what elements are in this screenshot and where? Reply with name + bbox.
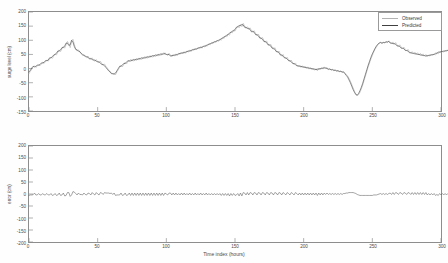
y-tick-label: 50 [21,52,26,57]
legend: Observed Predicted [378,12,442,31]
surge-level-figure: surge level (cm) -150-100-50050100150200… [0,0,448,263]
legend-label-observed: Observed [402,15,422,22]
x-tick-label: 250 [369,113,377,119]
y-tick-label: -200 [17,241,26,246]
x-tick-label: 250 [369,244,377,250]
error-plot-area [28,145,442,243]
y-tick-label: 150 [18,23,26,28]
x-tick-label: 300 [438,244,446,250]
y-tick-label: 0 [23,192,26,197]
x-tick-label: 0 [27,244,30,250]
y-tick-label: 100 [18,167,26,172]
y-tick-label: 100 [18,37,26,42]
x-tick-label: 200 [300,244,308,250]
x-tick-label: 100 [162,244,170,250]
x-axis-title: Time index (hours) [0,251,448,257]
legend-swatch-observed [382,18,398,19]
surge-level-panel: surge level (cm) -150-100-50050100150200… [0,0,448,131]
y-axis-tick-labels-error: -200-150-100-50050100150200 [0,145,26,243]
y-tick-label: 200 [18,143,26,148]
y-tick-label: -150 [17,228,26,233]
y-tick-label: 200 [18,9,26,14]
x-tick-label: 200 [300,113,308,119]
series-line-predicted [29,24,448,95]
y-tick-label: 50 [21,179,26,184]
y-tick-label: -50 [19,204,26,209]
legend-entry-observed: Observed [382,15,438,22]
legend-swatch-predicted [382,25,398,26]
x-tick-label: 300 [438,113,446,119]
x-tick-label: 0 [27,113,30,119]
y-tick-label: -100 [17,216,26,221]
y-axis-tick-labels-surge: -150-100-50050100150200 [0,11,26,112]
y-tick-label: 0 [23,66,26,71]
y-tick-label: -50 [19,81,26,86]
y-tick-label: -150 [17,110,26,115]
error-panel: error (cm) -200-150-100-50050100150200 0… [0,131,448,263]
x-tick-label: 50 [94,113,99,119]
error-series-canvas [29,146,441,242]
x-axis-tick-labels-surge: 050100150200250300 [28,113,442,123]
legend-label-predicted: Predicted [402,22,421,29]
y-tick-label: 150 [18,155,26,160]
series-line-error [29,192,448,197]
x-tick-label: 150 [231,113,239,119]
x-tick-label: 100 [162,113,170,119]
x-tick-label: 50 [94,244,99,250]
x-tick-label: 150 [231,244,239,250]
y-tick-label: -100 [17,95,26,100]
legend-entry-predicted: Predicted [382,22,438,29]
